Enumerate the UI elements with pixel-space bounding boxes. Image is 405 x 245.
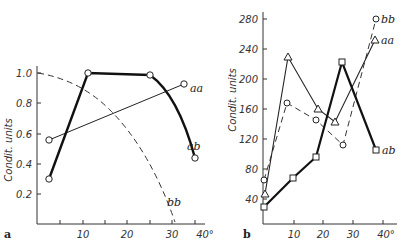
series-label-ab: ab xyxy=(187,140,201,153)
series-label-bb: bb xyxy=(167,196,181,209)
y-ticks-a xyxy=(37,73,41,194)
figure: 10 20 30 40° 1.0 0.8 0.6 0.4 0.2 Condit.… xyxy=(0,0,405,245)
series-label-bb: bb xyxy=(381,13,395,26)
x-tick-label: 30 xyxy=(166,229,179,240)
y-tick-label: 0.8 xyxy=(16,98,32,109)
y-tick-label: 40 xyxy=(245,194,258,205)
y-tick-label: 0.6 xyxy=(16,129,32,140)
series-label-aa: aa xyxy=(190,82,203,95)
series-label-ab: ab xyxy=(382,144,396,157)
x-tick-label: 20 xyxy=(317,229,330,240)
y-tick-label: 1.0 xyxy=(16,68,32,79)
x-tick-label: 20 xyxy=(121,229,134,240)
y-tick-label: 280 xyxy=(239,14,258,25)
panel-b: 10 20 30 40° 280 240 200 160 120 80 40 C… xyxy=(227,12,397,241)
markers-aa-b xyxy=(261,36,379,197)
x-tick-label: 30 xyxy=(347,229,360,240)
series-label-aa: aa xyxy=(381,34,394,47)
y-tick-label: 80 xyxy=(245,164,258,175)
panel-a: 10 20 30 40° 1.0 0.8 0.6 0.4 0.2 Condit.… xyxy=(3,66,214,241)
x-tick-label: 10 xyxy=(288,229,301,240)
markers-bb-b xyxy=(261,16,379,183)
y-tick-label: 0.2 xyxy=(16,189,32,200)
panel-label-b: b xyxy=(243,228,251,241)
x-ticks-b xyxy=(294,220,383,224)
series-aa-a xyxy=(49,84,184,140)
y-tick-label: 0.4 xyxy=(16,159,32,170)
x-tick-label: 40° xyxy=(196,229,214,240)
x-tick-label: 40° xyxy=(377,229,395,240)
y-tick-label: 120 xyxy=(239,134,258,145)
y-ticks-b xyxy=(263,19,267,199)
y-axis-title-a: Condit. units xyxy=(3,118,14,181)
panel-label-a: a xyxy=(4,228,11,241)
series-aa-b xyxy=(265,40,375,194)
y-axis-title-b: Condit. units xyxy=(227,68,238,131)
x-tick-label: 10 xyxy=(77,229,90,240)
y-tick-label: 200 xyxy=(239,74,258,85)
y-tick-label: 160 xyxy=(239,104,258,115)
y-tick-label: 240 xyxy=(239,44,258,55)
series-bb-a xyxy=(38,73,175,222)
markers-ab-b xyxy=(261,59,379,210)
